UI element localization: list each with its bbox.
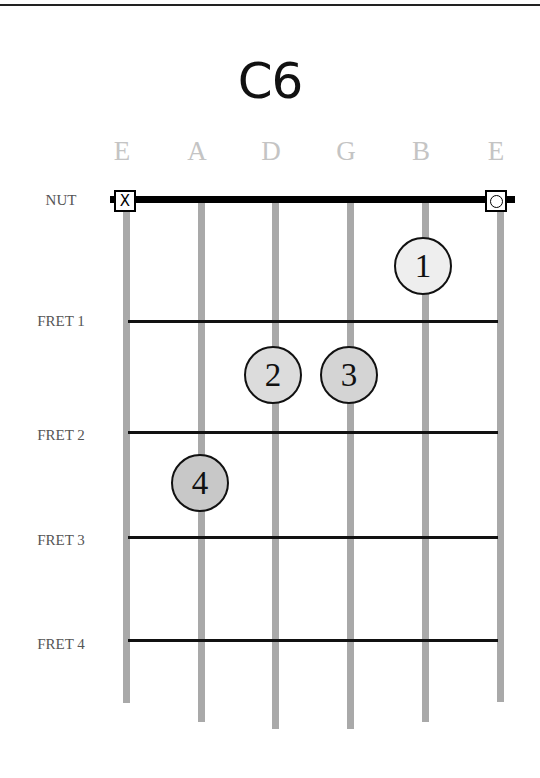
fret-1-label: FRET 1 (20, 313, 102, 330)
finger-2-dot: 2 (244, 346, 302, 404)
finger-4-dot: 4 (171, 454, 229, 512)
finger-1-dot: 1 (394, 237, 452, 295)
fret-line-4 (128, 639, 498, 642)
string-d (272, 200, 279, 729)
fret-line-2 (128, 431, 498, 434)
open-circle-icon (490, 195, 503, 208)
open-string-o-icon (485, 190, 507, 212)
string-label-a: A (177, 136, 217, 167)
nut-label: NUT (20, 192, 102, 209)
muted-string-x-icon: X (114, 190, 136, 212)
finger-3-dot: 3 (320, 346, 378, 404)
string-label-e-high: E (476, 136, 516, 167)
string-g (347, 200, 354, 729)
fret-3-label: FRET 3 (20, 532, 102, 549)
string-e-low (123, 200, 130, 703)
fret-4-label: FRET 4 (20, 636, 102, 653)
fret-line-1 (128, 320, 498, 323)
fret-2-label: FRET 2 (20, 427, 102, 444)
string-e-high (497, 200, 504, 702)
top-border-line (0, 4, 540, 6)
string-label-g: G (326, 136, 366, 167)
fret-line-3 (128, 536, 498, 539)
string-label-b: B (401, 136, 441, 167)
string-label-d: D (251, 136, 291, 167)
chord-title: C6 (0, 52, 540, 110)
nut-bar (110, 196, 515, 203)
string-label-e-low: E (102, 136, 142, 167)
